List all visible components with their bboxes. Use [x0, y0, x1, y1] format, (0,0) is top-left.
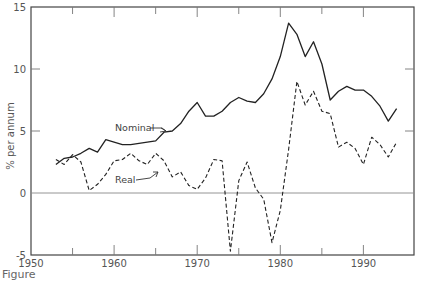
- x-tick-label: 1980: [268, 258, 293, 268]
- y-axis-title: % per annum: [5, 102, 16, 169]
- series-lines: [56, 23, 397, 251]
- series-annotations: NominalReal: [115, 122, 166, 185]
- y-tick-label: 0: [20, 188, 26, 199]
- y-tick-label: 5: [20, 126, 26, 137]
- real-label: Real: [115, 174, 135, 185]
- real-arrow: [136, 172, 158, 180]
- axis-ticks: [31, 7, 414, 255]
- figure-caption: Figure: [2, 268, 36, 281]
- x-axis-tick-labels: 19501960197019801990: [18, 258, 376, 268]
- y-tick-label: 10: [13, 64, 26, 75]
- nominal-label: Nominal: [115, 122, 154, 133]
- plot-frame: [31, 7, 414, 255]
- real-arrowhead: [153, 172, 158, 177]
- y-tick-label: 15: [13, 2, 26, 13]
- x-tick-label: 1960: [101, 258, 126, 268]
- x-tick-label: 1970: [184, 258, 209, 268]
- x-tick-label: 1990: [351, 258, 376, 268]
- x-tick-label: 1950: [18, 258, 43, 268]
- plot-border: [31, 7, 414, 255]
- interest-rate-chart: -5051015 19501960197019801990 % per annu…: [0, 0, 422, 268]
